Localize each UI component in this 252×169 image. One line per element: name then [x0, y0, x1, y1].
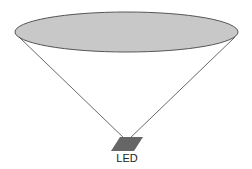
cone-edge-right [127, 37, 235, 141]
led-chip-icon [111, 137, 143, 151]
led-label: LED [116, 152, 137, 164]
cone-edge-left [19, 37, 127, 141]
illuminated-area-ellipse [15, 12, 238, 52]
light-cone-diagram: LED [0, 0, 252, 169]
